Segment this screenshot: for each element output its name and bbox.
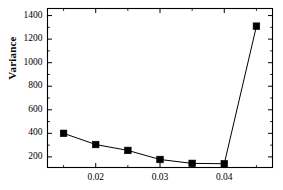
- chart-container: Variance 200400600800100012001400 0.020.…: [0, 0, 283, 190]
- y-tick-label: 200: [9, 151, 43, 161]
- y-tick-label: 1400: [9, 10, 43, 20]
- data-point-marker: [60, 130, 67, 137]
- y-tick-label: 400: [9, 127, 43, 137]
- data-point-marker: [157, 156, 164, 163]
- data-point-marker: [189, 160, 196, 167]
- y-tick-label: 800: [9, 80, 43, 90]
- x-tick-label: 0.02: [76, 172, 116, 182]
- data-point-marker: [221, 160, 228, 167]
- data-point-marker: [125, 147, 132, 154]
- x-tick-label: 0.03: [140, 172, 180, 182]
- y-tick-label: 1000: [9, 57, 43, 67]
- x-tick-label: 0.04: [204, 172, 244, 182]
- variance-line-chart: [0, 0, 283, 190]
- y-tick-label: 1200: [9, 33, 43, 43]
- y-tick-label: 600: [9, 104, 43, 114]
- data-point-marker: [253, 23, 260, 30]
- data-point-marker: [92, 141, 99, 148]
